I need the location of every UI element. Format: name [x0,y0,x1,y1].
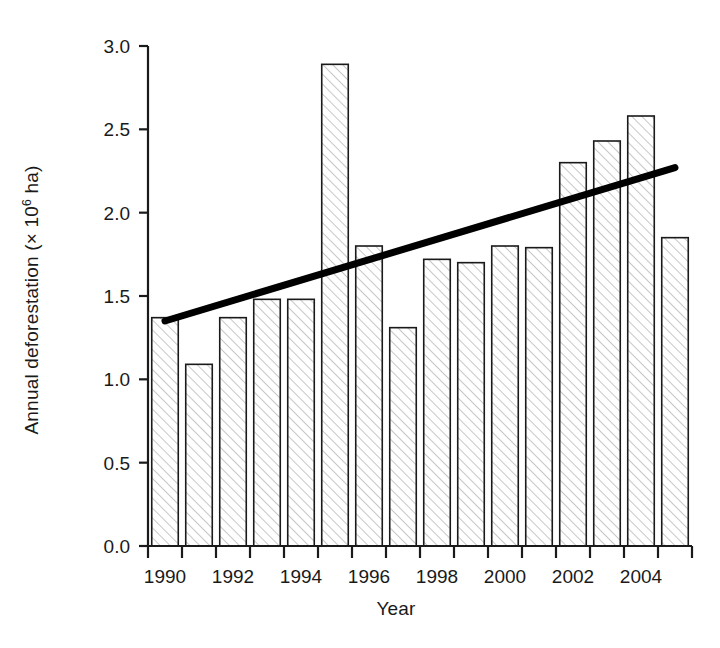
bar [322,64,349,546]
bar [356,246,383,546]
bar [662,238,689,546]
x-axis-title: Year [376,598,416,619]
bar [560,163,587,546]
deforestation-bar-chart: 0.00.51.01.52.02.53.0 199019921994199619… [0,0,720,648]
bar [424,259,451,546]
bar [594,141,621,546]
y-tick-label: 3.0 [104,36,130,57]
x-tick-label: 1992 [212,566,254,587]
x-tick-label: 1996 [348,566,390,587]
x-tick-label: 2004 [620,566,663,587]
bar [526,248,553,546]
bar [390,328,417,546]
y-tick-label: 1.5 [104,286,130,307]
bar [254,299,281,546]
y-tick-label: 1.0 [104,369,130,390]
bar [458,263,485,546]
y-tick-label: 2.5 [104,119,130,140]
bar [220,318,247,546]
bar [186,364,213,546]
x-tick-label: 1990 [144,566,186,587]
y-tick-label: 0.0 [104,536,130,557]
y-axis-title-main: Annual deforestation (× 10 [21,206,42,435]
x-tick-label: 2002 [552,566,594,587]
x-tick-label: 1998 [416,566,458,587]
bar [152,318,179,546]
y-axis-title-tail: ha) [21,165,42,199]
x-tick-label: 2000 [484,566,526,587]
bar [288,299,315,546]
chart-canvas: 0.00.51.01.52.02.53.0 199019921994199619… [0,0,720,648]
y-tick-label: 2.0 [104,203,130,224]
x-tick-label: 1994 [280,566,323,587]
bar [492,246,519,546]
y-tick-label: 0.5 [104,453,130,474]
